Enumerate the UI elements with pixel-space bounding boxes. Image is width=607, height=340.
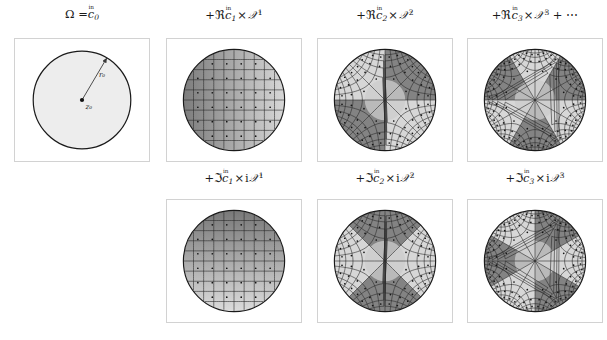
caption-times-icon: × [387,8,399,22]
caption-coefficient: inc [523,173,529,185]
conformal-grid-plot [167,39,301,161]
panel-caption-re-c1-z1: +ℜinc1×𝒳1 [166,9,302,23]
caption-variable: 𝒳 [399,8,409,22]
caption-operator: ℑ [365,171,373,185]
center-label: z₀ [85,103,93,111]
caption-lead: + [356,8,366,22]
caption-lead: + [204,171,214,185]
conformal-grid-plot [468,39,602,161]
panel-caption-omega-disk: Ω =inc0 [14,9,150,22]
caption-power: 2 [409,8,414,17]
caption-lead: + [205,8,215,22]
caption-operator: ℜ [215,8,225,22]
caption-lead: + [355,171,365,185]
caption-variable: 𝒳 [534,8,544,22]
caption-variable: 𝒳 [249,171,259,185]
caption-power: 1 [258,8,263,17]
caption-times-icon: × [236,8,248,22]
panel-caption-im-c3-iz3: +ℑinc3×i𝒳3 [467,172,603,186]
panel-im-c2-iz2 [317,199,453,323]
caption-lead: Ω = [65,7,88,21]
caption-in-superscript: in [524,169,529,175]
panel-caption-re-c3-z3: +ℜinc3×𝒳3 + ⋯ [467,9,603,23]
caption-power: 1 [259,171,264,180]
panel-re-c1-z1 [166,38,302,162]
caption-coefficient: inc [373,173,379,185]
caption-coefficient: inc [225,10,231,22]
conformal-grid-plot [468,200,602,322]
caption-operator: ℑ [515,171,523,185]
caption-operator: ℜ [501,8,511,22]
caption-lead: + [505,171,515,185]
caption-times-icon: × [233,171,245,185]
caption-coefficient: inc [222,173,228,185]
radius-label: r₀ [99,71,105,79]
caption-variable: 𝒳 [248,8,258,22]
caption-times-icon: × [523,8,535,22]
caption-coefficient: inc [376,10,382,22]
panel-caption-im-c2-iz2: +ℑinc2×i𝒳2 [317,172,453,186]
caption-power: 3 [560,171,565,180]
caption-operator: ℑ [214,171,222,185]
caption-coefficient: inc [511,10,517,22]
caption-in-superscript: in [374,169,379,175]
conformal-grid-plot [318,39,452,161]
panel-caption-im-c1-iz1: +ℑinc1×i𝒳1 [166,172,302,186]
caption-in-superscript: in [226,6,231,12]
panel-re-c2-z2 [317,38,453,162]
conformal-decomposition-figure: Ω =inc0z₀r₀+ℜinc1×𝒳1+ℜinc2×𝒳2+ℜinc3×𝒳3 +… [0,0,607,340]
panel-caption-re-c2-z2: +ℜinc2×𝒳2 [317,9,453,23]
caption-in-superscript: in [512,6,517,12]
caption-coefficient-index: 0 [94,13,99,22]
center-point [80,98,84,102]
caption-operator: ℜ [366,8,376,22]
caption-times-icon: × [534,171,546,185]
panel-re-c3-z3 [467,38,603,162]
conformal-grid-plot [318,200,452,322]
panel-omega-disk: z₀r₀ [14,38,150,162]
panel-im-c1-iz1 [166,199,302,323]
conformal-grid-plot [167,200,301,322]
caption-coefficient: inc [88,9,94,21]
caption-variable: 𝒳 [400,171,410,185]
domain-disk-plot: z₀r₀ [15,39,149,161]
caption-variable: 𝒳 [550,171,560,185]
panel-im-c3-iz3 [467,199,603,323]
caption-in-superscript: in [223,169,228,175]
caption-times-icon: × [384,171,396,185]
caption-in-superscript: in [89,5,94,11]
caption-in-superscript: in [377,6,382,12]
caption-power: 2 [410,171,415,180]
caption-trailer: + ⋯ [549,8,578,22]
